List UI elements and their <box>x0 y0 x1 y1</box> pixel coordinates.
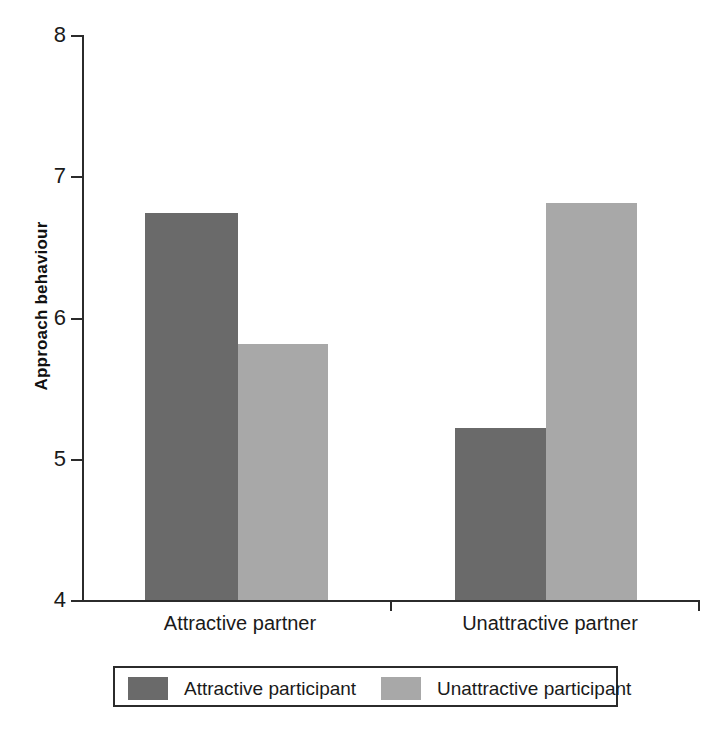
x-axis-label-unattractive-partner: Unattractive partner <box>435 611 665 635</box>
bar-attractive-partner-unattractive-participant <box>238 344 328 600</box>
x-axis-label-attractive-partner: Attractive partner <box>135 611 345 635</box>
y-axis-tick-6 <box>71 318 83 320</box>
bar-chart: Approach behaviour 8 7 6 5 4 Attractive … <box>0 0 723 738</box>
y-axis-tick-5 <box>71 459 83 461</box>
legend: Attractive participant Unattractive part… <box>113 666 618 707</box>
y-axis-tick-label-4: 4 <box>40 589 66 611</box>
legend-swatch-unattractive-participant <box>381 677 421 700</box>
y-axis-tick-label-5: 5 <box>40 448 66 470</box>
bar-unattractive-partner-unattractive-participant <box>546 203 637 600</box>
y-axis-title: Approach behaviour <box>32 196 52 416</box>
bar-unattractive-partner-attractive-participant <box>455 428 546 600</box>
legend-label-unattractive-participant: Unattractive participant <box>437 678 631 700</box>
legend-label-attractive-participant: Attractive participant <box>184 678 356 700</box>
y-axis-tick-7 <box>71 176 83 178</box>
legend-entry-unattractive-participant: Unattractive participant <box>381 668 631 709</box>
legend-swatch-attractive-participant <box>128 677 168 700</box>
y-axis-tick-label-7: 7 <box>40 165 66 187</box>
bar-attractive-partner-attractive-participant <box>145 213 238 600</box>
y-axis-tick-label-6: 6 <box>40 307 66 329</box>
legend-entry-attractive-participant: Attractive participant <box>128 668 356 709</box>
y-axis-tick-8 <box>71 35 83 37</box>
y-axis-tick-label-8: 8 <box>40 24 66 46</box>
x-axis-endcap <box>698 600 700 611</box>
x-axis-category-separator <box>390 600 392 611</box>
